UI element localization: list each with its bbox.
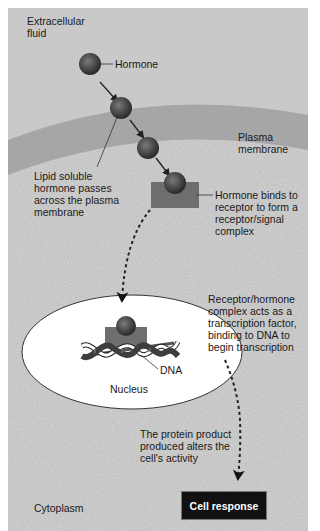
hormone-icon — [137, 137, 159, 159]
extracellular-fluid-label: Extracellular fluid — [27, 15, 85, 39]
hormone-icon — [110, 97, 132, 119]
nucleus-label: Nucleus — [110, 383, 148, 395]
lipid-soluble-label: Lipid soluble hormone passes across the … — [34, 170, 119, 218]
hormone-icon — [79, 53, 101, 75]
hormone-icon — [164, 172, 186, 194]
cell-response-box: Cell response — [181, 491, 267, 520]
transcription-factor-label: Receptor/hormone complex acts as a trans… — [208, 293, 297, 353]
binds-receptor-label: Hormone binds to receptor to form a rece… — [215, 189, 298, 237]
plasma-membrane-label: Plasma membrane — [238, 131, 288, 155]
hormone-icon — [116, 316, 136, 336]
hormone-label: Hormone — [115, 58, 158, 70]
cytoplasm-label: Cytoplasm — [34, 502, 84, 514]
dna-label: DNA — [160, 364, 182, 376]
protein-product-label: The protein product produced alters the … — [140, 428, 231, 464]
